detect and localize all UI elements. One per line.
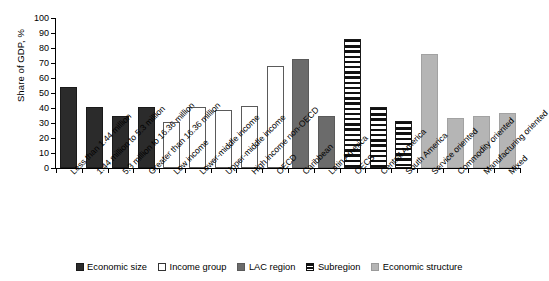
legend-item: Income group [158,262,226,272]
bar-slot [288,18,314,168]
y-tick-label-10: 10 [27,149,49,158]
legend-item: Economic structure [371,262,462,272]
legend-label: Economic structure [383,262,463,272]
y-tick-label-20: 20 [27,134,49,143]
y-axis-tick-labels: 0102030405060708090100 [27,18,49,168]
y-tick-label-90: 90 [27,29,49,38]
y-tick-label-50: 50 [27,89,49,98]
y-tick-label-100: 100 [27,14,49,23]
legend-label: Economic size [87,262,147,272]
y-tick-10 [51,153,55,154]
y-axis-title: Share of GDP, % [15,1,26,131]
legend-swatch-icon [237,263,245,271]
x-axis-category-labels: Less than 1.44 million1.44 million to 5.… [55,170,540,254]
y-tick-60 [51,78,55,79]
legend-swatch-icon [371,263,379,271]
y-tick-label-70: 70 [27,59,49,68]
legend-swatch-icon [306,263,314,271]
y-tick-20 [51,138,55,139]
y-tick-label-30: 30 [27,119,49,128]
legend-swatch-icon [76,263,84,271]
bar-slot [365,18,391,168]
chart-legend: Economic sizeIncome groupLAC regionSubre… [0,262,538,272]
y-tick-50 [51,93,55,94]
y-tick-90 [51,33,55,34]
bar [60,87,77,168]
legend-item: LAC region [237,262,295,272]
y-tick-label-80: 80 [27,44,49,53]
y-tick-0 [51,168,55,169]
legend-item: Subregion [306,262,360,272]
y-tick-40 [51,108,55,109]
legend-label: Subregion [318,262,360,272]
y-tick-label-60: 60 [27,74,49,83]
y-tick-100 [51,18,55,19]
bar-slot [56,18,82,168]
legend-label: LAC region [249,262,296,272]
y-tick-70 [51,63,55,64]
legend-label: Income group [170,262,227,272]
legend-swatch-icon [158,263,166,271]
y-tick-30 [51,123,55,124]
y-tick-label-40: 40 [27,104,49,113]
y-tick-label-0: 0 [27,164,49,173]
legend-item: Economic size [76,262,147,272]
y-tick-80 [51,48,55,49]
